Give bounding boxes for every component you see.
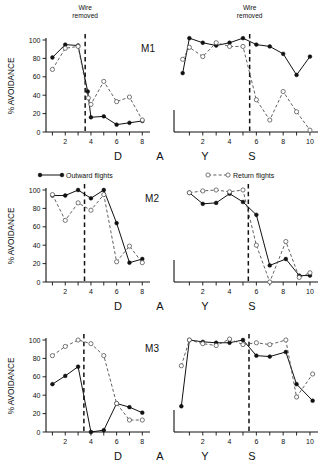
x-tick-label: 4 — [89, 138, 93, 145]
x-axis-letter-d: D — [114, 450, 122, 462]
y-tick-label: 40 — [33, 242, 41, 249]
data-point-outward-flights — [140, 411, 144, 415]
data-point-return-flights — [102, 79, 106, 83]
y-tick-label: 80 — [33, 205, 41, 212]
data-point-outward-flights — [281, 52, 285, 56]
data-point-outward-flights — [241, 338, 245, 342]
data-point-outward-flights — [284, 350, 288, 354]
data-point-return-flights — [115, 260, 119, 264]
y-tick-label: 100 — [29, 187, 41, 194]
x-tick-label: 8 — [140, 138, 144, 145]
series-line-outward-flights — [52, 190, 142, 263]
x-axis-letter-y: Y — [201, 300, 209, 312]
data-point-return-flights — [201, 342, 205, 346]
series-line-return-flights — [181, 339, 312, 397]
x-axis-letter-s: S — [248, 450, 255, 462]
y-tick-label: 60 — [33, 73, 41, 80]
data-point-outward-flights — [115, 221, 119, 225]
chart-canvas: 020406080100% AVOIDANCEM12468Wireremoved… — [0, 0, 330, 470]
data-point-return-flights — [214, 41, 218, 45]
x-tick-label: 6 — [115, 288, 119, 295]
avoidance-figure: 020406080100% AVOIDANCEM12468Wireremoved… — [0, 0, 330, 470]
data-point-return-flights — [281, 89, 285, 93]
data-point-outward-flights — [311, 399, 315, 403]
data-point-outward-flights — [102, 428, 106, 432]
data-point-return-flights — [76, 44, 80, 48]
data-point-outward-flights — [295, 382, 299, 386]
data-point-return-flights — [254, 341, 258, 345]
data-point-return-flights — [63, 218, 67, 222]
x-axis-letter-y: Y — [201, 150, 209, 162]
y-tick-label: 40 — [33, 92, 41, 99]
data-point-return-flights — [76, 201, 80, 205]
data-point-return-flights — [308, 271, 312, 275]
x-tick-label: 4 — [89, 288, 93, 295]
data-point-return-flights — [254, 243, 258, 247]
data-point-return-flights — [268, 280, 272, 284]
data-point-outward-flights — [102, 114, 106, 118]
data-point-return-flights — [50, 354, 54, 358]
data-point-return-flights — [297, 275, 301, 279]
y-axis-label: % AVOIDANCE — [7, 357, 16, 414]
x-tick-label: 8 — [140, 438, 144, 445]
legend-marker-return-start — [206, 173, 210, 177]
data-point-return-flights — [201, 54, 205, 58]
data-point-outward-flights — [51, 382, 55, 386]
y-tick-label: 100 — [29, 37, 41, 44]
x-tick-label: 8 — [281, 288, 285, 295]
data-point-outward-flights — [254, 213, 258, 217]
panel-label-m2: M2 — [145, 193, 159, 204]
legend: Outward flightsReturn flights — [38, 172, 275, 180]
data-point-return-flights — [294, 110, 298, 114]
x-axis-letter-s: S — [248, 300, 255, 312]
data-point-return-flights — [102, 193, 106, 197]
x-tick-label: 4 — [89, 438, 93, 445]
data-point-return-flights — [214, 188, 218, 192]
data-point-outward-flights — [51, 56, 55, 60]
data-point-return-flights — [308, 128, 312, 132]
wire-removed-annotation-line2: removed — [237, 12, 263, 19]
x-axis-letter-a: A — [156, 450, 164, 462]
legend-label-return: Return flights — [233, 172, 275, 180]
legend-label-outward: Outward flights — [66, 172, 113, 180]
data-point-outward-flights — [214, 201, 218, 205]
data-point-return-flights — [241, 44, 245, 48]
data-point-outward-flights — [89, 115, 93, 119]
data-point-outward-flights — [201, 41, 205, 45]
y-tick-label: 0 — [37, 129, 41, 136]
data-point-return-flights — [76, 338, 80, 342]
y-tick-label: 60 — [33, 373, 41, 380]
data-point-outward-flights — [102, 188, 106, 192]
data-point-return-flights — [268, 343, 272, 347]
y-tick-label: 80 — [33, 55, 41, 62]
x-tick-label: 8 — [140, 288, 144, 295]
data-point-return-flights — [201, 189, 205, 193]
data-point-outward-flights — [89, 430, 93, 434]
y-axis-label: % AVOIDANCE — [7, 57, 16, 114]
legend-marker-outward-end — [60, 173, 64, 177]
y-tick-label: 20 — [33, 260, 41, 267]
data-point-outward-flights — [89, 196, 93, 200]
data-point-return-flights — [311, 372, 315, 376]
data-point-outward-flights — [63, 194, 67, 198]
legend-marker-outward-start — [38, 173, 42, 177]
data-point-return-flights — [181, 57, 185, 61]
series-line-return-flights — [52, 195, 142, 263]
series-line-outward-flights — [181, 340, 312, 406]
data-point-outward-flights — [268, 264, 272, 268]
x-tick-label: 6 — [254, 288, 258, 295]
data-point-return-flights — [284, 338, 288, 342]
data-point-outward-flights — [241, 36, 245, 40]
data-point-outward-flights — [128, 405, 132, 409]
data-point-outward-flights — [268, 45, 272, 49]
data-point-outward-flights — [63, 374, 67, 378]
data-point-return-flights — [140, 418, 144, 422]
x-tick-label: 10 — [306, 138, 314, 145]
data-point-outward-flights — [268, 355, 272, 359]
y-tick-label: 20 — [33, 110, 41, 117]
data-point-outward-flights — [128, 261, 132, 265]
data-point-outward-flights — [254, 43, 258, 47]
x-tick-label: 6 — [115, 138, 119, 145]
data-point-outward-flights — [201, 202, 205, 206]
x-tick-label: 8 — [281, 138, 285, 145]
